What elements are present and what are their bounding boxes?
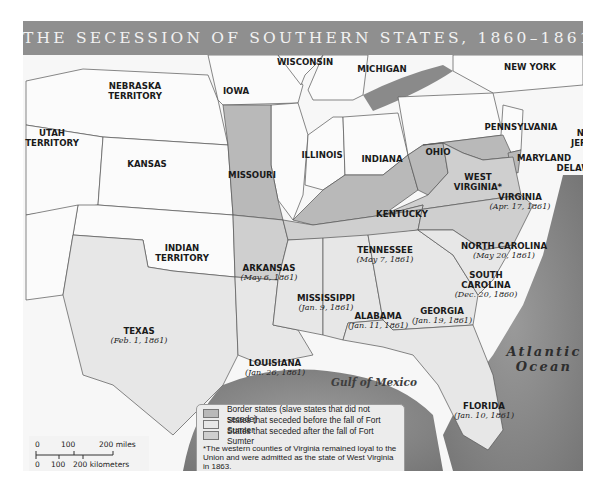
label-south-carolina: SOUTHCAROLINA(Dec. 20, 1860) [455, 270, 518, 300]
scale-tick: 200 miles [99, 440, 136, 449]
scale-tick: 100 [61, 440, 75, 449]
label-alabama: ALABAMA(Jan. 11, 1861) [348, 311, 408, 331]
scale-tick: 0 [35, 460, 40, 469]
state-kansas [98, 137, 233, 215]
scale-bar: 0 100 200 miles 0 100 200 kilometers [29, 436, 149, 471]
label-north-carolina: NORTH CAROLINA(May 20, 1861) [461, 241, 547, 261]
legend-item-after: States that seceded after the fall of Fo… [203, 430, 398, 441]
label-delaware: DELAWARE [557, 163, 583, 173]
label-new-york: NEW YORK [504, 62, 556, 72]
label-maryland: MARYLAND [517, 153, 571, 163]
legend-footnote: *The western counties of Virginia remain… [203, 444, 398, 471]
label-michigan: MICHIGAN [357, 64, 406, 74]
label-wisconsin: WISCONSIN [277, 57, 333, 67]
scale-tick: 100 [51, 460, 65, 469]
legend-swatch-border [203, 409, 219, 418]
label-west-virginia: WESTVIRGINIA* [454, 172, 502, 192]
label-arkansas: ARKANSAS(May 6, 1861) [241, 263, 298, 283]
legend-swatch-after [203, 431, 219, 440]
label-florida: FLORIDA(Jan. 10, 1861) [454, 401, 514, 421]
label-mississippi: MISSISSIPPI(Jan. 9, 1861) [297, 293, 355, 313]
label-indian-territory: INDIANTERRITORY [155, 243, 209, 263]
label-ohio: OHIO [425, 147, 450, 157]
label-indiana: INDIANA [361, 154, 402, 164]
label-atlantic-ocean: AtlanticOcean [506, 344, 581, 374]
label-iowa: IOWA [223, 86, 249, 96]
label-louisiana: LOUISIANA(Jan. 26, 1861) [245, 358, 305, 378]
label-texas: TEXAS(Feb. 1, 1861) [111, 326, 168, 346]
map-title: THE SECESSION OF SOUTHERN STATES, 1860–1… [23, 21, 583, 55]
scale-ruler [35, 450, 115, 460]
legend-swatch-before [203, 420, 219, 429]
map-legend: Border states (slave states that did not… [196, 404, 405, 471]
label-pennsylvania: PENNSYLVANIA [484, 122, 557, 132]
label-gulf-of-mexico: Gulf of Mexico [331, 376, 417, 388]
label-nebraska-territory: NEBRASKATERRITORY [108, 81, 162, 101]
label-new-jersey: NEWJERSEY [571, 128, 583, 148]
label-georgia: GEORGIA(Jan. 19, 1861) [412, 306, 472, 326]
legend-label: States that seceded after the fall of Fo… [227, 426, 398, 446]
label-utah-territory: UTAHTERRITORY [25, 128, 79, 148]
map-frame: THE SECESSION OF SOUTHERN STATES, 1860–1… [23, 21, 583, 471]
label-tennessee: TENNESSEE(May 7, 1861) [357, 245, 414, 265]
scale-tick: 0 [35, 440, 40, 449]
label-kentucky: KENTUCKY [376, 209, 428, 219]
scale-tick: 200 kilometers [73, 460, 129, 469]
label-kansas: KANSAS [127, 159, 167, 169]
label-illinois: ILLINOIS [301, 150, 342, 160]
label-virginia: VIRGINIA(Apr. 17, 1861) [490, 192, 551, 212]
label-missouri: MISSOURI [228, 170, 276, 180]
